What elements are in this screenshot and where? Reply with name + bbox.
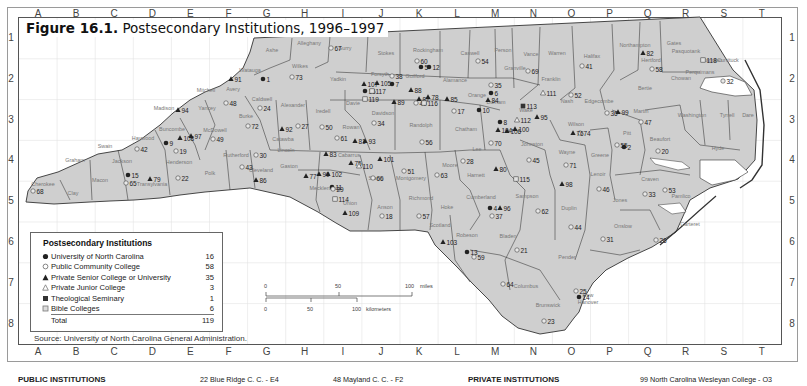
row-label-4: 4	[5, 154, 17, 165]
svg-text:41: 41	[585, 63, 593, 70]
svg-text:21: 21	[520, 247, 528, 254]
legend-item-private-junior: Private Junior College 3	[39, 283, 214, 294]
legend-count: 35	[194, 273, 214, 282]
row-label-8: 8	[786, 318, 798, 329]
county-label-pitt: Pitt	[623, 130, 631, 136]
svg-text:10: 10	[482, 107, 490, 114]
open-square-icon	[39, 305, 51, 312]
svg-text:43: 43	[245, 164, 253, 171]
svg-text:108: 108	[183, 135, 194, 142]
svg-text:17: 17	[457, 108, 465, 115]
county-label-polk: Polk	[205, 170, 216, 176]
column-label-e: E	[171, 8, 209, 19]
county-label-anson: Anson	[377, 204, 392, 210]
svg-text:61: 61	[340, 135, 348, 142]
index-entry-22: 22 Blue Ridge C. C. - E4	[200, 375, 279, 384]
svg-text:99: 99	[621, 109, 629, 116]
legend-item-community-college: Public Community College 58	[39, 262, 214, 273]
column-label-m: M	[476, 346, 514, 357]
county-label-catawba: Catawba	[272, 136, 293, 142]
county-label-beaufort: Beaufort	[650, 136, 671, 142]
svg-text:33: 33	[648, 191, 656, 198]
county-label-forsyth: Forsyth	[371, 71, 389, 77]
county-label-rutherford: Rutherford	[223, 152, 248, 158]
county-label-greene: Greene	[591, 152, 609, 158]
svg-text:71: 71	[569, 162, 577, 169]
county-label-alleghany: Alleghany	[297, 40, 321, 46]
svg-text:34: 34	[377, 120, 385, 127]
county-label-stokes: Stokes	[378, 50, 395, 56]
county-label-hertford: Hertford	[641, 57, 660, 63]
svg-text:24: 24	[263, 105, 271, 112]
svg-text:2: 2	[627, 144, 631, 151]
county-label-johnston: Johnston	[521, 141, 543, 147]
legend-count: 58	[194, 262, 214, 271]
column-label-h: H	[286, 346, 324, 357]
svg-text:15: 15	[131, 172, 139, 179]
svg-text:67: 67	[334, 45, 342, 52]
column-label-d: D	[133, 346, 171, 357]
svg-text:57: 57	[422, 213, 430, 220]
column-label-g: G	[248, 8, 286, 19]
county-label-caswell: Caswell	[461, 50, 480, 56]
column-label-l: L	[438, 8, 476, 19]
row-label-8: 8	[5, 318, 17, 329]
svg-text:79: 79	[153, 176, 161, 183]
column-label-j: J	[362, 8, 400, 19]
svg-text:86: 86	[259, 177, 267, 184]
svg-text:1: 1	[266, 76, 270, 83]
svg-text:85: 85	[450, 96, 458, 103]
index-entry-99: 99 North Carolina Wesleyan College - O3	[640, 375, 772, 384]
column-label-p: P	[591, 8, 629, 19]
legend-item-seminary: Theological Seminary 1	[39, 293, 214, 304]
scale-miles-50: 50	[335, 283, 341, 289]
svg-text:55: 55	[620, 142, 628, 149]
county-label-brunswick: Brunswick	[536, 302, 561, 308]
column-label-d: D	[133, 8, 171, 19]
filled-square-icon	[39, 295, 51, 302]
svg-text:22: 22	[181, 175, 189, 182]
svg-text:50: 50	[325, 124, 333, 131]
county-label-cabarrus: Cabarrus	[338, 152, 360, 158]
county-label-halifax: Halifax	[584, 53, 601, 59]
svg-text:107: 107	[367, 81, 378, 88]
legend-count: 3	[194, 283, 214, 292]
county-label-perquimans: Perquimans	[686, 69, 715, 75]
svg-text:92: 92	[285, 126, 293, 133]
svg-text:32: 32	[726, 78, 734, 85]
legend-total-row: Total 119	[51, 314, 214, 326]
svg-text:59: 59	[477, 254, 485, 261]
legend-count: 1	[194, 294, 214, 303]
county-label-harnett: Harnett	[467, 172, 485, 178]
svg-text:116: 116	[427, 100, 438, 107]
county-label-jones: Jones	[613, 197, 628, 203]
svg-text:28: 28	[466, 158, 474, 165]
svg-text:94: 94	[181, 107, 189, 114]
svg-text:6: 6	[494, 90, 498, 97]
scale-km-unit: kilometers	[366, 306, 391, 312]
svg-text:68: 68	[36, 188, 44, 195]
county-label-cumberland: Cumberland	[466, 194, 495, 200]
row-label-4: 4	[786, 154, 798, 165]
county-label-montgomery: Montgomery	[396, 175, 426, 181]
county-label-mitchell: Mitchell	[197, 87, 215, 93]
svg-text:102: 102	[331, 171, 342, 178]
county-label-guilford: Guilford	[406, 73, 425, 79]
column-label-s: S	[705, 346, 743, 357]
column-label-t: T	[743, 8, 781, 19]
svg-text:64: 64	[506, 281, 514, 288]
county-label-franklin: Franklin	[541, 76, 560, 82]
county-label-lee: Lee	[473, 146, 482, 152]
svg-text:23: 23	[547, 318, 555, 325]
county-label-rockingham: Rockingham	[413, 47, 443, 53]
county-label-gaston: Gaston	[280, 163, 297, 169]
svg-text:25: 25	[579, 288, 587, 295]
svg-text:53: 53	[668, 187, 676, 194]
row-label-5: 5	[5, 195, 17, 206]
column-label-g: G	[248, 346, 286, 357]
county-label-rowan: Rowan	[343, 124, 360, 130]
county-label-henderson: Henderson	[166, 159, 192, 165]
county-label-craven: Craven	[641, 176, 658, 182]
column-label-r: R	[667, 346, 705, 357]
county-label-richmond: Richmond	[409, 195, 433, 201]
